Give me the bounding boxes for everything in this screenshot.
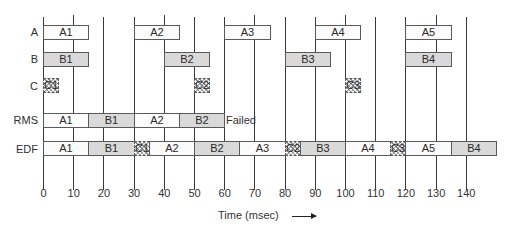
task-block-b1: B1: [88, 113, 135, 128]
x-tick-label: 30: [128, 187, 140, 199]
task-block-a2: A2: [134, 25, 180, 40]
x-tick-label: 110: [367, 187, 385, 199]
task-block-a1: A1: [43, 141, 89, 156]
task-block-b2: B2: [194, 141, 240, 156]
row-label-b: B: [2, 53, 38, 65]
task-block-b1: B1: [43, 52, 89, 67]
gridline-90: [315, 17, 316, 190]
task-block-a5: A5: [405, 25, 452, 40]
gridline-70: [254, 15, 255, 190]
task-block-b3: B3: [285, 52, 331, 67]
task-block-b4: B4: [405, 52, 452, 67]
x-tick-label: 50: [188, 187, 200, 199]
x-tick-label: 60: [219, 187, 231, 199]
x-tick-label: 10: [68, 187, 80, 199]
x-tick-label: 70: [249, 187, 261, 199]
gridline-140: [466, 17, 467, 190]
row-label-c: C: [2, 80, 38, 92]
x-tick-label: 90: [309, 187, 321, 199]
task-block-a2: A2: [149, 141, 195, 156]
task-block-c1: C1: [43, 78, 59, 93]
task-block-c2: C2: [194, 78, 210, 93]
gridline-100: [345, 15, 346, 190]
task-block-a1: A1: [43, 25, 89, 40]
task-block-c2: C2: [285, 141, 301, 156]
x-tick-label: 140: [457, 187, 475, 199]
task-block-b1: B1: [88, 141, 135, 156]
gridline-30: [134, 17, 135, 190]
x-tick-label: 100: [336, 187, 354, 199]
time-arrow-icon: [292, 216, 316, 217]
scheduling-diagram: 0102030405060708090100110120130140AA1A2A…: [0, 0, 513, 232]
task-block-b2: B2: [179, 113, 225, 128]
x-tick-label: 80: [279, 187, 291, 199]
gridline-40: [164, 15, 165, 190]
row-label-edf: EDF: [2, 143, 38, 155]
x-tick-label: 40: [158, 187, 170, 199]
gridline-10: [73, 15, 74, 190]
task-block-a4: A4: [315, 25, 361, 40]
task-block-c3: C3: [345, 78, 361, 93]
x-tick-label: 20: [98, 187, 110, 199]
gridline-20: [103, 17, 104, 190]
gridline-0: [43, 17, 44, 190]
gridline-120: [405, 17, 406, 190]
x-tick-label: 130: [427, 187, 445, 199]
task-block-a5: A5: [405, 141, 452, 156]
task-block-b2: B2: [164, 52, 210, 67]
task-block-a1: A1: [43, 113, 89, 128]
x-tick-label: 120: [397, 187, 415, 199]
rms-failed-label: Failed: [226, 114, 256, 126]
task-block-c3: C3: [390, 141, 406, 156]
task-block-b3: B3: [300, 141, 346, 156]
gridline-50: [194, 17, 195, 190]
task-block-c1: C1: [134, 141, 150, 156]
x-axis-title: Time (msec): [218, 209, 279, 221]
gridline-110: [375, 17, 376, 190]
task-block-a4: A4: [345, 141, 391, 156]
task-block-a3: A3: [224, 25, 271, 40]
row-label-rms: RMS: [2, 114, 38, 126]
task-block-a3: A3: [239, 141, 286, 156]
task-block-b4: B4: [451, 141, 497, 156]
gridline-60: [224, 17, 225, 190]
row-label-a: A: [2, 26, 38, 38]
gridline-80: [285, 17, 286, 190]
task-block-a2: A2: [134, 113, 180, 128]
x-tick-label: 0: [40, 187, 46, 199]
gridline-130: [436, 15, 437, 190]
